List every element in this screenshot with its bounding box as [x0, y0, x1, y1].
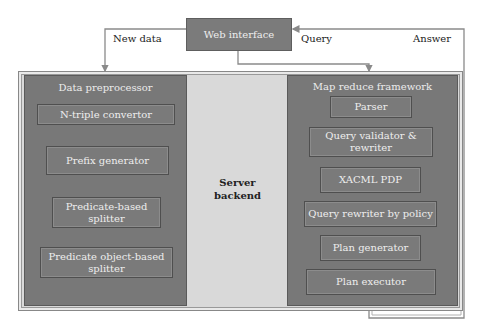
query-arrow: [238, 51, 369, 71]
component-label: N-triple convertor: [60, 109, 152, 121]
new-data-label: New data: [113, 33, 162, 44]
predicate-based-splitter-box: Predicate-based splitter: [52, 197, 161, 228]
server-label-line2: backend: [190, 189, 285, 202]
component-label: splitter: [88, 213, 125, 225]
component-label: Predicate-based: [66, 201, 148, 213]
component-label: Query rewriter by policy: [308, 208, 433, 220]
component-label: XACML PDP: [339, 174, 402, 186]
component-label: Parser: [355, 101, 388, 113]
answer-label: Answer: [413, 33, 451, 44]
query-validator-box: Query validator & rewriter: [309, 127, 433, 157]
query-label: Query: [301, 33, 332, 44]
map-reduce-title: Map reduce framework: [288, 81, 457, 92]
component-label: Predicate object-based: [49, 251, 165, 263]
component-label: Query validator &: [325, 130, 416, 142]
parser-box: Parser: [330, 96, 412, 118]
component-label: splitter: [88, 263, 125, 275]
data-preprocessor-title: Data preprocessor: [25, 82, 186, 93]
web-interface-label: Web interface: [204, 29, 275, 40]
predicate-object-based-splitter-box: Predicate object-based splitter: [40, 247, 173, 278]
query-rewriter-by-policy-box: Query rewriter by policy: [304, 201, 437, 227]
xacml-pdp-box: XACML PDP: [320, 167, 421, 193]
map-reduce-panel: Map reduce framework Parser Query valida…: [287, 75, 458, 306]
prefix-generator-box: Prefix generator: [46, 146, 169, 175]
component-label: rewriter: [350, 142, 392, 154]
component-label: Plan generator: [333, 242, 409, 254]
plan-generator-box: Plan generator: [320, 235, 421, 261]
data-preprocessor-panel: Data preprocessor N-triple convertor Pre…: [24, 75, 187, 306]
web-interface-box: Web interface: [186, 18, 292, 51]
plan-executor-box: Plan executor: [306, 269, 436, 295]
n-triple-convertor-box: N-triple convertor: [37, 104, 175, 125]
component-label: Plan executor: [336, 276, 406, 288]
server-label-line1: Server: [190, 176, 285, 189]
server-backend-label: Server backend: [190, 176, 285, 202]
component-label: Prefix generator: [66, 155, 149, 167]
